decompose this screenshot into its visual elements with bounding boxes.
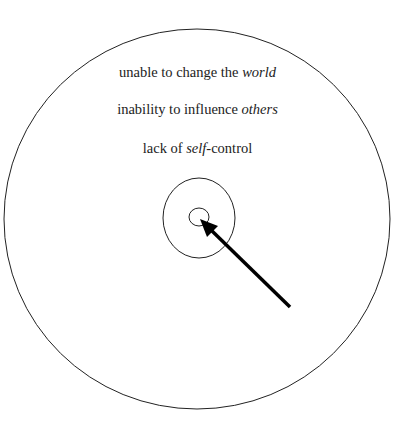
label-self: lack of self-control [0,140,395,157]
label-others-text: inability to influence [117,101,241,117]
label-others-italic: others [242,101,278,117]
label-self-suffix: -control [206,140,252,156]
middle-circle [163,178,235,258]
label-self-text: lack of [143,140,186,156]
label-world: unable to change the world [0,64,395,81]
arrow-shaft [210,229,290,307]
label-self-italic: self [186,140,206,156]
label-others: inability to influence others [0,101,395,118]
label-world-text: unable to change the [119,64,242,80]
outer-circle [4,29,390,409]
label-world-italic: world [242,64,276,80]
